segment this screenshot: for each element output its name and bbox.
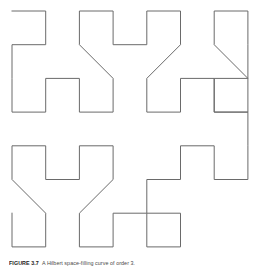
caption-text: A Hilbert space-filling curve of order 3…: [42, 260, 135, 266]
caption-number: 3.7: [31, 260, 39, 266]
plot-background: [0, 0, 260, 267]
figure-caption: FIGURE 3.7 A Hilbert space-filling curve…: [9, 259, 257, 267]
caption-label: FIGURE: [9, 260, 30, 266]
hilbert-curve-plot: [0, 0, 260, 267]
figure-panel: FIGURE 3.7 A Hilbert space-filling curve…: [0, 0, 260, 267]
